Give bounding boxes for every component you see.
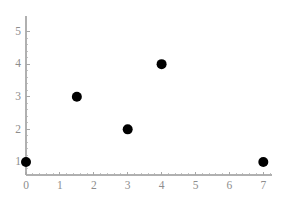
x-tick-label-0: 0 — [23, 179, 29, 191]
y-tick-label-3: 3 — [15, 90, 21, 102]
x-tick-label-3: 3 — [125, 179, 131, 191]
y-tick-label-4: 4 — [15, 57, 21, 69]
x-tick-label-4: 4 — [159, 179, 165, 191]
data-point — [21, 157, 31, 167]
x-tick-label-6: 6 — [227, 179, 233, 191]
x-tick-label-2: 2 — [91, 179, 97, 191]
y-tick-label-1: 1 — [15, 155, 21, 167]
x-tick-label-7: 7 — [260, 179, 266, 191]
x-tick-label-5: 5 — [193, 179, 199, 191]
scatter-plot-figure: 01234567 12345 — [0, 0, 291, 206]
data-point — [72, 92, 82, 102]
data-point — [157, 59, 167, 69]
data-point — [123, 124, 133, 134]
y-tick-label-5: 5 — [15, 25, 21, 37]
x-tick-label-1: 1 — [57, 179, 63, 191]
plot-canvas: 01234567 12345 — [0, 0, 291, 206]
y-tick-label-2: 2 — [15, 123, 21, 135]
data-point — [258, 157, 268, 167]
